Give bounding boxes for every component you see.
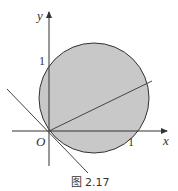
x-axis-label: x (162, 133, 169, 148)
y-tick-label: 1 (39, 54, 45, 68)
figure-caption: 图 2.17 (71, 176, 110, 189)
x-tick-label: 1 (128, 135, 134, 149)
origin-label: O (36, 134, 46, 149)
y-axis-label: y (35, 8, 43, 23)
figure-canvas: y x O 1 1 图 2.17 (0, 0, 178, 191)
